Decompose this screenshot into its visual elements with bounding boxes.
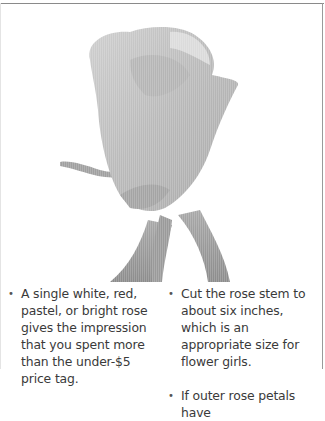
bullet-column-right: • Cut the rose stem to about six inches,… [168, 285, 310, 421]
bullet-column-left: • A single white, red, pastel, or bright… [8, 285, 150, 404]
bullet-item: • If outer rose petals have [168, 387, 310, 421]
bullet-text: Cut the rose stem to about six inches, w… [181, 286, 305, 369]
bullet-text: If outer rose petals have [181, 388, 295, 420]
bullet-item: • A single white, red, pastel, or bright… [8, 285, 150, 387]
page-border-left [0, 3, 1, 369]
bullet-item: • Cut the rose stem to about six inches,… [168, 285, 310, 370]
bullet-list-left: • A single white, red, pastel, or bright… [8, 285, 150, 387]
page-border-top [0, 3, 324, 4]
bullet-marker: • [8, 285, 14, 302]
bullet-marker: • [168, 387, 174, 404]
rose-photo [60, 20, 280, 282]
page-border-right [322, 3, 323, 369]
bullet-text: A single white, red, pastel, or bright r… [21, 286, 147, 386]
bullet-list-right: • Cut the rose stem to about six inches,… [168, 285, 310, 421]
bullet-marker: • [168, 285, 174, 302]
